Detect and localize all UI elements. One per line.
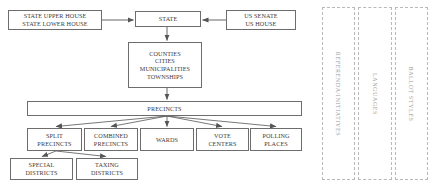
- node-wards-line-0: WARDS: [156, 136, 178, 144]
- node-congress-line-1: US HOUSE: [246, 20, 277, 28]
- node-taxing-districts-line-1: DISTRICTS: [91, 169, 123, 177]
- node-split-precincts-line-1: PRECINCTS: [37, 140, 71, 148]
- node-combined-precincts-line-0: COMBINED: [94, 132, 128, 140]
- node-local-governments-line-2: MUNICIPALITIES: [140, 65, 190, 73]
- node-legislature-line-0: STATE UPPER HOUSE: [24, 12, 87, 20]
- node-legislature-line-1: STATE LOWER HOUSE: [22, 20, 87, 28]
- panel-ballot-styles[interactable]: BALLOT STYLES: [395, 7, 428, 180]
- connector-split-to-special: [42, 151, 56, 157]
- node-local-governments-line-0: COUNTIES: [149, 50, 180, 58]
- panel-languages[interactable]: LANGUAGES: [358, 7, 392, 180]
- panel-referenda-initiatives[interactable]: REFERENDA/INITIATIVES: [322, 7, 355, 180]
- node-legislature[interactable]: STATE UPPER HOUSE STATE LOWER HOUSE: [8, 10, 102, 30]
- node-vote-centers-line-0: VOTE: [214, 132, 231, 140]
- node-local-governments-line-1: CITIES: [155, 57, 175, 65]
- node-polling-places-line-1: PLACES: [264, 140, 288, 148]
- node-special-districts-line-0: SPECIAL: [29, 161, 55, 169]
- node-vote-centers-line-1: CENTERS: [208, 140, 236, 148]
- node-state-line-0: STATE: [159, 15, 178, 23]
- connector-precincts-to-combined: [111, 116, 167, 127]
- panel-referenda-initiatives-label: REFERENDA/INITIATIVES: [336, 51, 342, 135]
- panel-languages-label: LANGUAGES: [372, 72, 378, 114]
- node-vote-centers[interactable]: VOTE CENTERS: [196, 128, 249, 151]
- node-split-precincts[interactable]: SPLIT PRECINCTS: [27, 128, 82, 151]
- node-taxing-districts-line-0: TAXING: [95, 161, 119, 169]
- node-wards[interactable]: WARDS: [140, 128, 194, 151]
- node-local-governments[interactable]: COUNTIES CITIES MUNICIPALITIES TOWNSHIPS: [128, 42, 202, 88]
- node-taxing-districts[interactable]: TAXING DISTRICTS: [76, 158, 138, 180]
- node-local-governments-line-3: TOWNSHIPS: [147, 73, 183, 81]
- node-polling-places[interactable]: POLLING PLACES: [250, 128, 302, 151]
- node-congress[interactable]: US SENATE US HOUSE: [226, 10, 296, 30]
- node-combined-precincts-line-1: PRECINCTS: [94, 140, 128, 148]
- panel-ballot-styles-label: BALLOT STYLES: [409, 66, 415, 121]
- connector-precincts-to-split: [56, 116, 167, 127]
- node-congress-line-0: US SENATE: [244, 12, 277, 20]
- node-combined-precincts[interactable]: COMBINED PRECINCTS: [84, 128, 138, 151]
- diagram-canvas: STATE UPPER HOUSE STATE LOWER HOUSE STAT…: [0, 0, 430, 187]
- node-special-districts[interactable]: SPECIAL DISTRICTS: [10, 158, 73, 180]
- connector-split-to-taxing: [56, 151, 106, 157]
- connector-precincts-to-vote-centers: [167, 116, 222, 127]
- node-state[interactable]: STATE: [135, 11, 201, 27]
- node-polling-places-line-0: POLLING: [262, 132, 289, 140]
- node-precincts-line-0: PRECINCTS: [147, 105, 181, 113]
- node-split-precincts-line-0: SPLIT: [46, 132, 63, 140]
- connector-precincts-to-polling-places: [167, 116, 276, 127]
- node-precincts[interactable]: PRECINCTS: [27, 101, 302, 116]
- node-special-districts-line-1: DISTRICTS: [25, 169, 57, 177]
